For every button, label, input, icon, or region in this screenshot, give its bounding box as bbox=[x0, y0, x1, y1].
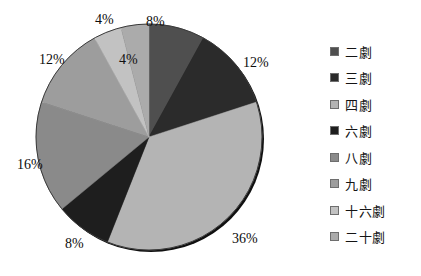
legend-item-label: 四劇 bbox=[345, 95, 372, 114]
legend-swatch-icon bbox=[330, 206, 339, 215]
legend-item[interactable]: 四劇 bbox=[330, 91, 420, 118]
pie-slices bbox=[34, 22, 264, 252]
legend-item-label: 十六劇 bbox=[345, 201, 386, 220]
legend-swatch-icon bbox=[330, 73, 339, 82]
legend-swatch-icon bbox=[330, 126, 339, 135]
legend-item[interactable]: 九劇 bbox=[330, 171, 420, 198]
legend-item-label: 二劇 bbox=[345, 42, 372, 61]
legend-item[interactable]: 二劇 bbox=[330, 38, 420, 65]
legend-item[interactable]: 六劇 bbox=[330, 118, 420, 145]
pie-label-4-inner: 4% bbox=[119, 52, 138, 68]
pie-label-8-top: 8% bbox=[146, 14, 165, 30]
legend-item-label: 三劇 bbox=[345, 68, 372, 87]
legend-item-label: 八劇 bbox=[345, 148, 372, 167]
pie-graphic bbox=[34, 22, 274, 262]
pie-label-8-bottom: 8% bbox=[65, 236, 84, 252]
legend-item[interactable]: 二十劇 bbox=[330, 224, 420, 251]
pie-label-4-top: 4% bbox=[95, 12, 114, 28]
legend-swatch-icon bbox=[330, 232, 339, 241]
legend-swatch-icon bbox=[330, 179, 339, 188]
pie-label-12-upperleft: 12% bbox=[39, 52, 65, 68]
legend-item[interactable]: 三劇 bbox=[330, 65, 420, 92]
legend-item[interactable]: 八劇 bbox=[330, 144, 420, 171]
pie-label-36: 36% bbox=[232, 231, 258, 247]
legend-swatch-icon bbox=[330, 100, 339, 109]
legend-item-label: 六劇 bbox=[345, 121, 372, 140]
pie-label-16: 16% bbox=[17, 157, 43, 173]
legend-item[interactable]: 十六劇 bbox=[330, 197, 420, 224]
legend-swatch-icon bbox=[330, 47, 339, 56]
legend-item-label: 九劇 bbox=[345, 174, 372, 193]
legend-item-label: 二十劇 bbox=[345, 227, 386, 246]
pie-label-12-right: 12% bbox=[243, 55, 269, 71]
pie-chart: 8% 4% 4% 12% 36% 8% 16% 12% 二劇 三劇 四劇 六劇 … bbox=[0, 0, 421, 276]
legend-swatch-icon bbox=[330, 153, 339, 162]
legend: 二劇 三劇 四劇 六劇 八劇 九劇 十六劇 二十劇 bbox=[330, 38, 420, 250]
